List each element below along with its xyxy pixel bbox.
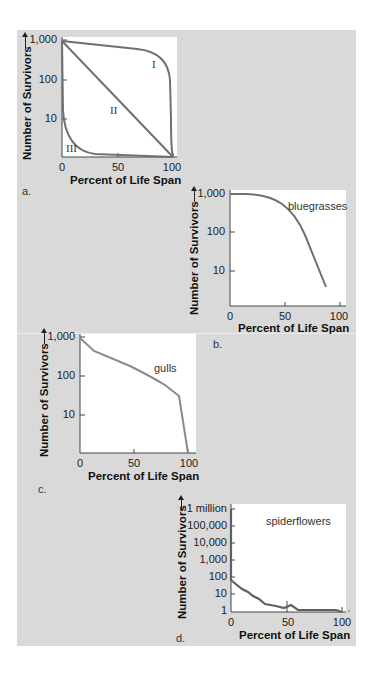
xtick-0: 0 <box>216 616 246 628</box>
series-label-spiderflowers: spiderflowers <box>266 515 331 527</box>
y-axis-label: Number of Survivors <box>176 505 188 619</box>
panel-letter-d: d. <box>176 632 185 644</box>
arrow-head-icon <box>178 495 184 500</box>
xtick-50: 50 <box>273 616 303 628</box>
xtick-100: 100 <box>327 616 357 628</box>
x-axis-label: Percent of Life Span <box>239 629 350 641</box>
arrow-icon <box>181 499 182 511</box>
